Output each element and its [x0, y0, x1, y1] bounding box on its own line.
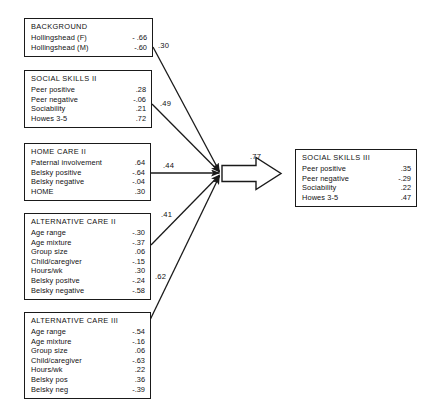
row-label: Child/caregiver — [31, 257, 82, 267]
row-value: -.29 — [390, 174, 411, 184]
table-row: Child/caregiver -.15 — [31, 257, 145, 267]
row-value: .47 — [393, 193, 411, 203]
table-row: Howes 3-5 .47 — [302, 193, 411, 203]
row-value: -.30 — [124, 228, 145, 238]
row-value: .06 — [127, 346, 145, 356]
node-home-care-ii-rows: Paternal involvement .64 Belsky positive… — [31, 158, 145, 196]
edge-line-background — [153, 47, 220, 172]
row-label: Age range — [31, 228, 66, 238]
table-row: Belsky negative -.04 — [31, 177, 145, 187]
row-label: Belsky negative — [31, 177, 84, 187]
table-row: Belsky neg -.39 — [31, 385, 145, 395]
node-alternative-care-iii-title: ALTERNATIVE CARE III — [31, 316, 145, 326]
row-label: Group size — [31, 346, 68, 356]
path-diagram: BACKGROUND Hollingshead (F) - .66 Hollin… — [0, 0, 441, 416]
row-value: .64 — [127, 158, 145, 168]
table-row: Age range -.30 — [31, 228, 145, 238]
node-social-skills-ii-title: SOCIAL SKILLS II — [31, 74, 146, 84]
row-value: .30 — [127, 266, 145, 276]
row-label: Hollingshead (M) — [31, 43, 88, 53]
row-label: Peer negative — [302, 174, 349, 184]
table-row: Hollingshead (F) - .66 — [31, 33, 147, 43]
node-alternative-care-ii: ALTERNATIVE CARE II Age range -.30 Age m… — [24, 213, 151, 300]
node-alternative-care-ii-rows: Age range -.30 Age mixture -.37 Group si… — [31, 228, 145, 295]
row-value: .35 — [393, 164, 411, 174]
node-social-skills-iii-title: SOCIAL SKILLS III — [302, 153, 411, 163]
table-row: Belsky pos .36 — [31, 375, 145, 385]
row-label: Sociability — [302, 183, 336, 193]
row-value: .22 — [393, 183, 411, 193]
row-label: Howes 3-5 — [31, 114, 67, 124]
row-label: Paternal involvement — [31, 158, 102, 168]
row-label: Belsky positive — [31, 168, 81, 178]
node-social-skills-iii: SOCIAL SKILLS III Peer positive .35 Peer… — [295, 149, 417, 207]
edge-label-alternative-care-iii: .62 — [155, 272, 166, 281]
table-row: Peer positive .35 — [302, 164, 411, 174]
table-row: Child/caregiver -.63 — [31, 356, 145, 366]
node-home-care-ii: HOME CARE II Paternal involvement .64 Be… — [24, 143, 151, 201]
row-value: -.24 — [124, 276, 145, 286]
row-value: .21 — [128, 104, 146, 114]
table-row: Age mixture -.16 — [31, 337, 145, 347]
row-label: Peer negative — [31, 95, 78, 105]
row-value: - .66 — [124, 33, 147, 43]
row-value: -.16 — [124, 337, 145, 347]
row-label: Hours/wk — [31, 365, 63, 375]
table-row: Hours/wk .30 — [31, 266, 145, 276]
table-row: Sociability .22 — [302, 183, 411, 193]
row-label: Peer positive — [31, 85, 75, 95]
row-label: Age mixture — [31, 238, 72, 248]
row-value: .28 — [128, 85, 146, 95]
table-row: Group size .06 — [31, 346, 145, 356]
row-label: Hollingshead (F) — [31, 33, 87, 43]
edge-line-alternative-care-iii — [150, 176, 220, 320]
row-value: .30 — [127, 187, 145, 197]
table-row: Belsky negative -.58 — [31, 286, 145, 296]
block-arrow-outcome — [222, 158, 281, 190]
row-label: Group size — [31, 247, 68, 257]
edge-label-social-skills-ii: .49 — [160, 99, 171, 108]
node-alternative-care-iii-rows: Age range -.54 Age mixture -.16 Group si… — [31, 327, 145, 394]
node-social-skills-iii-rows: Peer positive .35 Peer negative -.29 Soc… — [302, 164, 411, 202]
row-value: -.06 — [125, 95, 146, 105]
row-value: -.54 — [124, 327, 145, 337]
row-value: -.37 — [124, 238, 145, 248]
row-label: Hours/wk — [31, 266, 63, 276]
row-value: .72 — [128, 114, 146, 124]
row-label: Peer positive — [302, 164, 346, 174]
node-home-care-ii-title: HOME CARE II — [31, 147, 145, 157]
row-value: -.04 — [124, 177, 145, 187]
table-row: Paternal involvement .64 — [31, 158, 145, 168]
row-label: Age range — [31, 327, 66, 337]
table-row: Hours/wk .22 — [31, 365, 145, 375]
row-value: -.39 — [124, 385, 145, 395]
row-label: Belsky positve — [31, 276, 80, 286]
edge-label-background: .30 — [158, 41, 169, 50]
table-row: Hollingshead (M) -.60 — [31, 43, 147, 53]
row-label: HOME — [31, 187, 54, 197]
node-alternative-care-ii-title: ALTERNATIVE CARE II — [31, 217, 145, 227]
row-label: Belsky neg — [31, 385, 68, 395]
edge-label-home-care-ii: .44 — [163, 161, 174, 170]
node-social-skills-ii: SOCIAL SKILLS II Peer positive .28 Peer … — [24, 70, 152, 128]
edge-label-outcome: .77 — [250, 152, 261, 161]
row-label: Belsky pos — [31, 375, 68, 385]
row-value: -.58 — [124, 286, 145, 296]
row-value: .36 — [127, 375, 145, 385]
row-value: .06 — [127, 247, 145, 257]
table-row: Howes 3-5 .72 — [31, 114, 146, 124]
row-value: -.64 — [124, 168, 145, 178]
table-row: Group size .06 — [31, 247, 145, 257]
node-background-rows: Hollingshead (F) - .66 Hollingshead (M) … — [31, 33, 147, 52]
row-label: Howes 3-5 — [302, 193, 338, 203]
row-value: -.60 — [126, 43, 147, 53]
table-row: Age range -.54 — [31, 327, 145, 337]
table-row: Sociability .21 — [31, 104, 146, 114]
table-row: Peer negative -.06 — [31, 95, 146, 105]
table-row: Age mixture -.37 — [31, 238, 145, 248]
table-row: Peer positive .28 — [31, 85, 146, 95]
table-row: Belsky positve -.24 — [31, 276, 145, 286]
node-social-skills-ii-rows: Peer positive .28 Peer negative -.06 Soc… — [31, 85, 146, 123]
row-value: -.63 — [124, 356, 145, 366]
row-label: Child/caregiver — [31, 356, 82, 366]
